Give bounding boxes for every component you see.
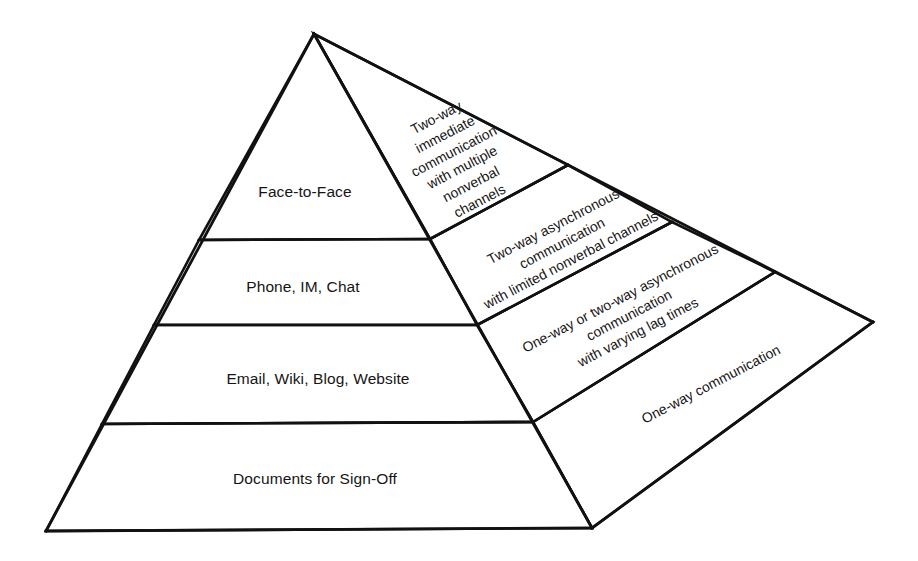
pyramid-geometry xyxy=(0,0,918,561)
front-face-band-3 xyxy=(102,325,533,424)
front-face-band-4 xyxy=(46,422,592,531)
front-divider-1 xyxy=(199,239,430,240)
pyramid-diagram: Face-to-Face Phone, IM, Chat Email, Wiki… xyxy=(0,0,918,561)
front-face-band-2 xyxy=(154,239,477,325)
